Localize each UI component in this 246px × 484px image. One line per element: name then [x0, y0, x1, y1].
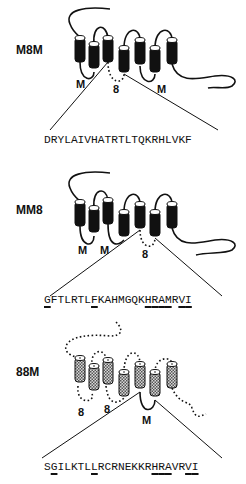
tm-helix-7	[167, 38, 177, 65]
tm-helix-4	[119, 370, 129, 397]
tm-helix-4	[119, 46, 129, 73]
zoom-line-right	[155, 238, 222, 296]
tm-helix-3	[103, 198, 113, 225]
residue: F	[185, 134, 192, 146]
loop-label: M	[100, 244, 109, 256]
zoom-line-left	[50, 230, 140, 296]
tm-helix-3	[103, 358, 113, 385]
residue: H	[111, 294, 118, 306]
residue-underlined: L	[91, 461, 98, 473]
tm-helix-2	[89, 42, 99, 69]
residue-underlined: M	[165, 294, 172, 306]
sequence: GFTLRTLFKAHMGQKHRAMRVI	[44, 294, 192, 306]
sequence: SGILKTLLRCRNEKKRHRAVRVI	[44, 461, 199, 473]
residue: L	[64, 294, 71, 306]
panel-m8m: M8M M 8 M DRYLAIVHATRTLTQKRHLVKF	[0, 0, 246, 160]
residue: L	[64, 461, 71, 473]
zoom-line-right	[155, 400, 222, 458]
n-terminus	[66, 322, 121, 358]
loop-label: M	[78, 244, 87, 256]
tm-helix-4	[119, 210, 129, 237]
n-terminus	[69, 8, 110, 37]
helices	[75, 356, 177, 397]
loop-label: M	[76, 78, 85, 90]
sequence: DRYLAIVHATRTLTQKRHLVKF	[44, 134, 192, 146]
residue: H	[91, 134, 98, 146]
residue-underlined: G	[44, 294, 51, 306]
residue: A	[71, 134, 78, 146]
tm-helix-2	[89, 364, 99, 391]
zoom-line-right	[124, 74, 218, 130]
zoom-line-left	[50, 62, 108, 130]
residue-underlined: H	[145, 294, 152, 306]
tm-helix-6	[150, 46, 160, 73]
residue: K	[138, 461, 145, 473]
tm-helix-5	[135, 38, 145, 65]
tm-helix-7	[167, 202, 177, 229]
panel-88m: 88M 8 8 M SGILKTLLRCRNEKKRHRAVRVI	[0, 320, 246, 484]
residue-underlined: A	[158, 294, 165, 306]
residue: Q	[138, 134, 145, 146]
residue: L	[165, 134, 172, 146]
c-terminus	[172, 228, 235, 255]
residue-underlined: A	[165, 461, 172, 473]
tm-helix-1	[75, 200, 85, 227]
tm-helix-3	[103, 36, 113, 63]
tm-helix-5	[135, 362, 145, 389]
tm-helix-1	[75, 36, 85, 63]
residue-underlined: I	[185, 294, 192, 306]
residue: K	[71, 461, 78, 473]
residue-underlined: R	[158, 461, 165, 473]
residue-underlined: I	[192, 461, 199, 473]
residue: N	[118, 461, 125, 473]
loop-label: 8	[113, 83, 119, 95]
n-terminus	[69, 172, 110, 201]
residue: K	[138, 294, 145, 306]
loop-label: 8	[104, 403, 110, 415]
loop-label: M	[157, 83, 166, 95]
helices	[75, 198, 177, 237]
residue: R	[111, 134, 118, 146]
tm-helix-1	[75, 356, 85, 383]
loop-label: 8	[78, 406, 84, 418]
residue-underlined: F	[91, 294, 98, 306]
c-terminus	[172, 64, 235, 88]
residue: S	[44, 461, 51, 473]
residue: T	[118, 134, 125, 146]
tm-helix-2	[89, 206, 99, 233]
residue: M	[118, 294, 125, 306]
helices	[75, 36, 177, 73]
tm-helix-6	[150, 370, 160, 397]
residue: L	[64, 134, 71, 146]
residue-underlined: V	[185, 461, 192, 473]
tm-helix-6	[150, 210, 160, 237]
panel-mm8: MM8 M M 8 GFTLRTLFKAHMGQKHRAMRVI	[0, 160, 246, 320]
residue: R	[145, 461, 152, 473]
tm-helix-7	[167, 362, 177, 389]
receptor-topology-88m: 8 8 M	[0, 320, 246, 484]
zoom-line-left	[42, 392, 140, 458]
loop-label: M	[142, 414, 151, 426]
tm-helix-5	[135, 202, 145, 229]
residue: R	[111, 461, 118, 473]
residue: H	[158, 134, 165, 146]
loop-label: 8	[142, 248, 148, 260]
residue: R	[71, 294, 78, 306]
residue: D	[44, 134, 51, 146]
c-terminus	[172, 388, 206, 416]
residue: K	[145, 134, 152, 146]
